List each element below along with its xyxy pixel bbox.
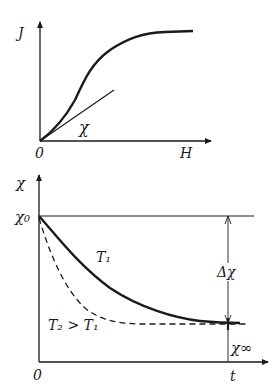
curve-T1 [39,216,240,323]
bottom-y-label: χ [15,174,26,192]
delta-chi-label: Δχ [216,264,237,280]
top-x-label: H [179,145,193,161]
chi-inf-label: χ∞ [230,339,253,357]
chi0-label: χ₀ [14,208,30,226]
top-y-label: J [15,25,25,41]
t1-label: T₁ [96,249,111,265]
diagram-canvas: J H 0 χ χ χ₀ T₁ T₂ > T₁ Δχ χ∞ 0 t [0,0,278,387]
top-origin-label: 0 [35,145,44,161]
tangent-chi-label: χ [78,118,90,137]
bottom-origin-label: 0 [33,367,42,383]
t2-label: T₂ > T₁ [48,317,99,333]
bottom-x-label: t [230,368,236,384]
top-plot: J H 0 χ [15,22,211,161]
bottom-plot: χ χ₀ T₁ T₂ > T₁ Δχ χ∞ 0 t [14,174,268,384]
